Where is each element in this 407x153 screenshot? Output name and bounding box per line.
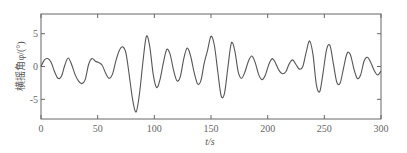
x-tick-label: 200 [260,123,275,134]
y-axis-ticks [41,34,381,100]
y-axis-label: 横摇角φ/(°) [14,41,27,90]
roll-angle-line [41,36,381,112]
roll-angle-chart: 050100150200250300 -505 t/s 横摇角φ/(°) [0,0,407,153]
plot-frame [41,14,381,119]
y-axis-tick-labels: -505 [30,28,38,105]
x-axis-tick-labels: 050100150200250300 [39,123,389,134]
y-tick-label: -5 [30,94,38,105]
x-tick-label: 150 [204,123,219,134]
x-axis-label: t/s [205,136,215,147]
x-tick-label: 250 [317,123,332,134]
x-tick-label: 100 [147,123,162,134]
x-tick-label: 50 [93,123,103,134]
x-tick-label: 300 [374,123,389,134]
x-tick-label: 0 [39,123,44,134]
y-tick-label: 5 [33,28,38,39]
x-axis-ticks [41,14,381,119]
y-tick-label: 0 [33,61,38,72]
